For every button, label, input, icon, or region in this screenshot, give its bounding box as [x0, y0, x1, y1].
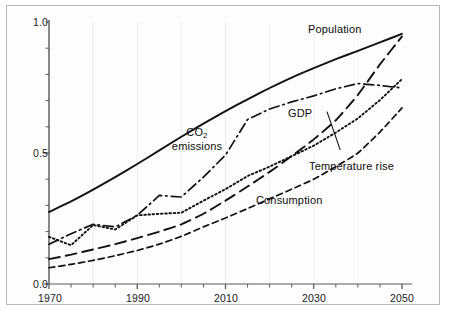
series-label-co2-emissions: CO2 emissions: [166, 126, 228, 152]
xtick-label-1970: 1970: [34, 292, 66, 304]
chart-figure: 1.0 0.5 0.0 1970 1990 2010 2030 2050 Pop…: [0, 0, 449, 322]
series-label-consumption: Consumption: [256, 194, 322, 206]
ytick-label-0: 0.0: [22, 278, 48, 290]
xtick-label-1990: 1990: [122, 292, 154, 304]
xtick-label-2010: 2010: [210, 292, 242, 304]
xtick-label-2030: 2030: [298, 292, 330, 304]
series-label-temperature-rise: Temperature rise: [309, 160, 394, 172]
series-label-population: Population: [308, 23, 362, 35]
co2-label-line1: CO2: [186, 126, 207, 138]
ytick-label-0-5: 0.5: [22, 147, 48, 159]
co2-label-line2: emissions: [172, 140, 222, 152]
series-label-gdp: GDP: [288, 107, 312, 119]
axis-ticks: [44, 22, 402, 289]
co2-subscript: 2: [203, 131, 208, 140]
ytick-label-1: 1.0: [22, 16, 48, 28]
xtick-label-2050: 2050: [386, 292, 418, 304]
gridlines: [49, 22, 402, 284]
